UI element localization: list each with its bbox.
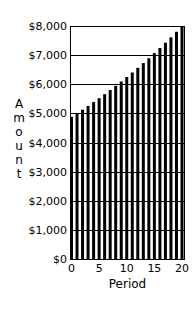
y-axis-title-letter: u [15, 139, 23, 153]
x-axis-title: Period [109, 277, 146, 291]
y-axis-title-letter: t [17, 167, 22, 181]
y-tick-label: $1,000 [29, 224, 68, 237]
bar-period-12 [136, 68, 139, 259]
bar-period-19 [175, 32, 178, 259]
x-tick-label: 20 [175, 262, 189, 275]
y-tick-label: $4,000 [29, 137, 68, 150]
y-axis-title-letter: m [13, 111, 25, 125]
y-tick-label: $3,000 [29, 166, 68, 179]
bar-period-3 [87, 106, 90, 259]
bar-period-9 [120, 82, 123, 259]
y-tick-label: $7,000 [29, 49, 68, 62]
y-tick-label: $2,000 [29, 195, 68, 208]
y-axis-title-letter: A [15, 97, 24, 111]
y-tick-label: $8,000 [29, 20, 68, 33]
bar-period-6 [103, 94, 106, 259]
bar-period-4 [92, 102, 95, 259]
bar-period-15 [153, 53, 156, 259]
bar-period-2 [81, 110, 84, 259]
bar-period-13 [142, 63, 145, 259]
bar-period-8 [114, 86, 117, 259]
bar-period-10 [125, 77, 128, 259]
bar-period-14 [147, 58, 150, 259]
bars [70, 26, 184, 259]
x-tick-label: 10 [120, 262, 134, 275]
x-tick-label: 15 [147, 262, 161, 275]
bar-period-16 [158, 48, 161, 259]
y-axis-title-letter: n [15, 153, 23, 167]
bar-period-11 [131, 73, 134, 259]
bar-period-17 [164, 43, 167, 259]
y-tick-label: $6,000 [29, 78, 68, 91]
y-tick-labels: $0$1,000$2,000$3,000$4,000$5,000$6,000$7… [29, 20, 68, 266]
x-tick-label: 5 [96, 262, 103, 275]
x-tick-labels: 05101520 [68, 262, 189, 275]
bar-chart: $0$1,000$2,000$3,000$4,000$5,000$6,000$7… [0, 0, 195, 311]
bar-period-7 [109, 90, 112, 259]
bar-period-1 [76, 113, 79, 259]
y-tick-label: $5,000 [29, 107, 68, 120]
y-axis-title-letter: o [15, 125, 22, 139]
bar-period-20 [181, 26, 184, 259]
x-tick-label: 0 [68, 262, 75, 275]
bar-period-18 [169, 37, 172, 259]
y-axis-title: Amount [13, 97, 25, 181]
y-tick-label: $0 [53, 253, 67, 266]
bar-period-5 [98, 98, 101, 259]
